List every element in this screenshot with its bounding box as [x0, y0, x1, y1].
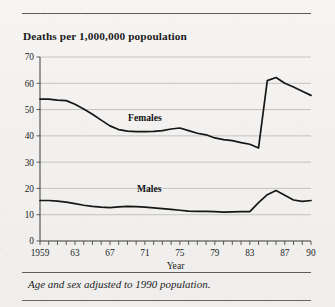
- x-tick-label-79: 79: [210, 248, 220, 258]
- y-tick-label-60: 60: [25, 79, 35, 89]
- x-tick-label-71: 71: [140, 248, 150, 258]
- y-tick-label-10: 10: [25, 210, 35, 220]
- series-label-females: Females: [128, 112, 162, 123]
- line-chart: 01020304050607019596367717579838790YearF…: [0, 0, 335, 307]
- x-axis-title: Year: [167, 260, 185, 271]
- x-tick-label-75: 75: [175, 248, 185, 258]
- y-tick-label-20: 20: [25, 184, 35, 194]
- figure-page: Deaths per 1,000,000 popoulation 0102030…: [0, 0, 335, 307]
- x-tick-label-90: 90: [306, 248, 316, 258]
- x-tick-label-1959: 1959: [31, 248, 50, 258]
- y-tick-label-50: 50: [25, 105, 35, 115]
- figure-footnote: Age and sex adjusted to 1990 population.: [28, 278, 210, 290]
- series-line-males: [40, 191, 311, 213]
- series-line-females: [40, 78, 311, 148]
- bottom-divider-rule: [22, 300, 311, 301]
- y-tick-label-40: 40: [25, 131, 35, 141]
- x-tick-label-87: 87: [280, 248, 290, 258]
- x-tick-label-63: 63: [70, 248, 80, 258]
- y-tick-label-30: 30: [25, 158, 35, 168]
- x-tick-label-67: 67: [105, 248, 115, 258]
- series-label-males: Males: [137, 183, 162, 194]
- y-tick-label-70: 70: [25, 52, 35, 62]
- chart-plot-area: 01020304050607019596367717579838790YearF…: [0, 0, 335, 307]
- x-tick-label-83: 83: [245, 248, 255, 258]
- footnote-divider-rule: [22, 272, 311, 273]
- y-tick-label-0: 0: [29, 236, 34, 246]
